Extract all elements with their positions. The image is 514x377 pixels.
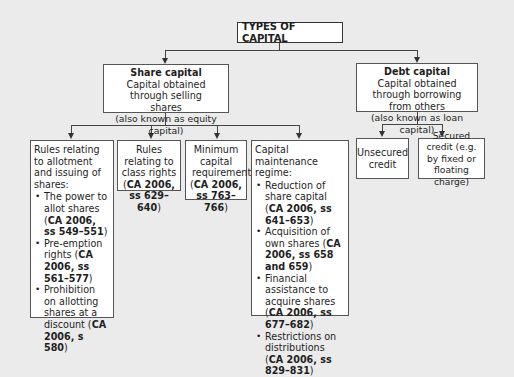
bullet-end: ) [310,319,314,330]
list-item: Reduction of share capital (CA 2006, ss … [265,180,345,226]
capital-maintenance-list: Reduction of share capital (CA 2006, ss … [255,180,345,377]
statute-reference: CA 2006, ss 763–766 [194,179,242,213]
allotment-rules-intro: Rules relating to allotment and issuing … [34,144,110,190]
list-item: The power to allot shares (CA 2006, ss 5… [44,191,110,237]
debt-capital-heading: Debt capital [359,66,475,78]
bullet-end: ) [310,365,314,376]
title-box: TYPES OF CAPITAL [237,22,343,43]
minimum-capital-reference: (CA 2006, ss 763–766) [188,179,244,214]
ref-close: ) [224,202,228,213]
debt-capital-box: Debt capital Capital obtained through bo… [356,63,478,112]
bullet-end: ) [310,215,314,226]
bullet-end: ) [89,273,93,284]
unsecured-credit-box: Unsecured credit [356,138,409,179]
statute-reference: CA 2006, ss 549–551 [44,215,104,238]
statute-reference: CA 2006, ss 641–653 [265,203,332,226]
debt-capital-description: Capital obtained through borrowing from … [359,78,475,113]
class-rights-intro: Rules relating to class rights [120,144,178,179]
list-item: Restrictions on distributions (CA 2006, … [265,331,345,377]
minimum-capital-intro: Minimum capital requirement [188,144,244,179]
allotment-rules-box: Rules relating to allotment and issuing … [30,140,114,318]
bullet-end: ) [104,226,108,237]
capital-maintenance-box: Capital maintenance regime: Reduction of… [251,140,349,316]
share-capital-heading: Share capital [106,67,226,79]
arrow-to-capital-maintenance [296,133,302,139]
ref-close: ) [157,202,161,213]
statute-reference: CA 2006, ss 829–831 [265,354,332,377]
bullet-text: Pre-emption rights ( [44,238,102,261]
arrow-to-allotment-rules [68,133,74,139]
bullet-text: Prohibition on allotting shares at a dis… [44,284,98,330]
share-capital-box: Share capital Capital obtained through s… [103,64,229,113]
share-capital-note: (also known as equity capital) [106,113,226,136]
secured-credit-label: Secured credit (e.g. by fixed or floatin… [421,130,482,188]
bullet-text: Acquisition of own shares ( [265,226,330,249]
class-rights-box: Rules relating to class rights (CA 2006,… [117,140,181,191]
capital-maintenance-intro: Capital maintenance regime: [255,144,345,179]
diagram-title: TYPES OF CAPITAL [242,21,338,44]
statute-reference: CA 2006, ss 677–682 [265,307,332,330]
class-rights-reference: (CA 2006, ss 629–640) [120,179,178,214]
minimum-capital-box: Minimum capital requirement (CA 2006, ss… [185,140,247,200]
list-item: Pre-emption rights (CA 2006, ss 561–577) [44,238,110,284]
share-capital-description: Capital obtained through selling shares [106,79,226,114]
list-item: Financial assistance to acquire shares (… [265,273,345,331]
allotment-rules-list: The power to allot shares (CA 2006, ss 5… [34,191,110,353]
bullet-end: ) [309,261,313,272]
bullet-end: ) [64,342,68,353]
connector-top-horizontal [165,50,418,51]
secured-credit-box: Secured credit (e.g. by fixed or floatin… [418,138,485,179]
list-item: Prohibition on allotting shares at a dis… [44,284,110,354]
unsecured-credit-label: Unsecured credit [357,147,408,170]
statute-reference: CA 2006, ss 629–640 [127,179,175,213]
list-item: Acquisition of own shares (CA 2006, ss 6… [265,226,345,272]
